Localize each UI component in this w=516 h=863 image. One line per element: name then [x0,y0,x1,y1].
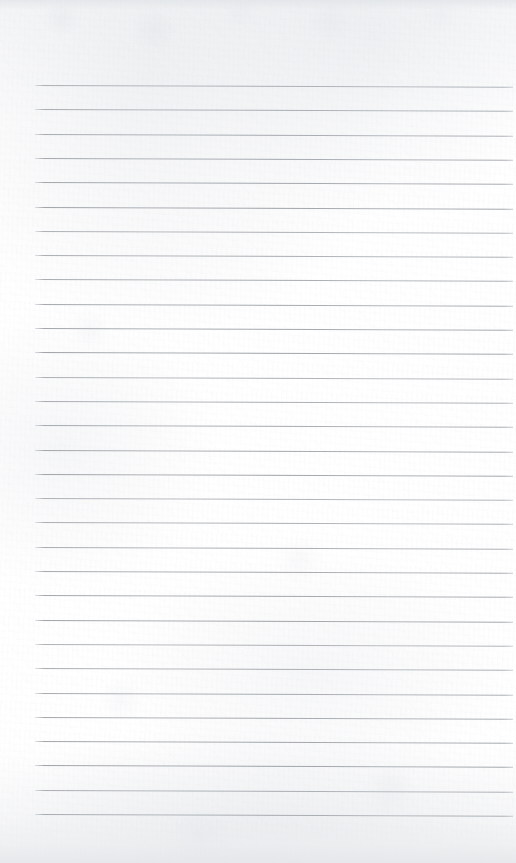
ruled-line [35,425,513,428]
ruled-line [35,644,513,647]
ruled-line [35,304,513,307]
ruled-line [35,85,513,88]
ruled-line [35,401,513,404]
ruled-line [35,522,513,525]
ruled-line [35,717,513,720]
ruled-line [35,328,513,331]
ruled-lines-layer [0,0,516,863]
ruled-line [35,595,513,598]
ruled-line [35,207,513,210]
ruled-line [35,158,513,161]
ruled-line [35,765,513,768]
ruled-line [35,255,513,258]
ruled-line [35,620,513,623]
ruled-line [35,668,513,671]
ruled-line [35,474,513,477]
ruled-line [35,109,513,112]
ruled-line [35,279,513,282]
ruled-line [35,741,513,744]
ruled-line [35,571,513,574]
ruled-line [35,498,513,501]
ruled-line [35,814,513,817]
ruled-line [35,352,513,355]
notebook-page [0,0,516,863]
ruled-line [35,182,513,185]
ruled-line [35,231,513,234]
ruled-line [35,693,513,696]
ruled-line [35,134,513,137]
ruled-line [35,377,513,380]
ruled-line [35,547,513,550]
ruled-line [35,450,513,453]
ruled-line [35,790,513,793]
